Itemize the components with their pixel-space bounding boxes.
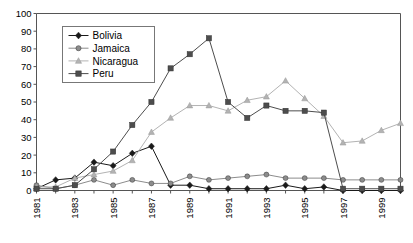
x-axis-label: 1983	[69, 198, 80, 219]
legend-label-peru: Peru	[93, 68, 114, 79]
data-point-circle	[283, 176, 288, 181]
data-point-square	[245, 115, 250, 120]
data-point-circle	[398, 177, 403, 182]
chart-container: 0102030405060708090100198119831985198719…	[0, 0, 413, 243]
series-bolivia	[34, 143, 404, 194]
data-point-circle	[111, 183, 116, 188]
data-point-square	[225, 99, 230, 104]
data-point-triangle	[283, 78, 289, 83]
data-point-diamond	[206, 185, 212, 192]
data-point-diamond	[225, 185, 231, 192]
y-axis-label: 40	[21, 114, 32, 125]
data-point-square	[187, 52, 192, 57]
data-point-diamond	[283, 182, 289, 189]
y-axis-label: 70	[21, 61, 32, 72]
data-point-diamond	[148, 143, 154, 150]
data-point-diamond	[321, 184, 327, 191]
y-axis-label: 10	[21, 167, 32, 178]
data-point-diamond	[263, 185, 269, 192]
data-point-square	[398, 186, 403, 191]
y-axis-label: 30	[21, 132, 32, 143]
y-axis-label: 20	[21, 150, 32, 161]
data-point-square	[111, 149, 116, 154]
data-point-diamond	[53, 177, 59, 184]
data-point-circle	[168, 181, 173, 186]
legend-label-jamaica: Jamaica	[93, 43, 131, 54]
data-point-square	[149, 99, 154, 104]
data-point-square	[379, 186, 384, 191]
x-axis-label: 1997	[338, 198, 349, 219]
data-point-circle	[264, 172, 269, 177]
x-axis-label: 1987	[146, 198, 157, 219]
data-point-circle	[302, 176, 307, 181]
data-point-triangle	[148, 129, 154, 134]
data-point-circle	[245, 174, 250, 179]
data-point-circle	[379, 177, 384, 182]
series-nicaragua	[34, 78, 404, 190]
data-point-circle	[187, 174, 192, 179]
x-axis-label: 1991	[223, 198, 234, 219]
data-point-square	[130, 122, 135, 127]
x-axis-label: 1995	[299, 198, 310, 219]
data-point-circle	[92, 177, 97, 182]
line-chart: 0102030405060708090100198119831985198719…	[0, 0, 413, 243]
data-point-circle	[226, 176, 231, 181]
data-point-square	[283, 108, 288, 113]
data-point-circle	[360, 177, 365, 182]
data-point-square	[34, 186, 39, 191]
data-point-circle	[149, 181, 154, 186]
y-axis-label: 0	[26, 185, 31, 196]
x-axis-label: 1981	[31, 198, 42, 219]
y-axis-label: 50	[21, 96, 32, 107]
data-point-circle	[76, 46, 81, 51]
data-point-square	[91, 167, 96, 172]
data-point-triangle	[168, 115, 174, 120]
data-point-circle	[130, 177, 135, 182]
data-point-square	[206, 36, 211, 41]
data-point-circle	[321, 176, 326, 181]
series-line	[37, 146, 401, 190]
legend-label-bolivia: Bolivia	[93, 30, 123, 41]
data-point-circle	[206, 177, 211, 182]
legend: BoliviaJamaicaNicaraguaPeru	[63, 27, 155, 83]
data-point-square	[302, 108, 307, 113]
y-axis-label: 100	[16, 8, 32, 19]
data-point-triangle	[110, 168, 116, 173]
data-point-square	[360, 186, 365, 191]
x-axis-label: 1985	[108, 198, 119, 219]
x-axis-label: 1989	[184, 198, 195, 219]
data-point-square	[72, 183, 77, 188]
data-point-diamond	[302, 185, 308, 192]
data-point-triangle	[398, 120, 404, 125]
data-point-square	[340, 186, 345, 191]
y-axis-label: 60	[21, 79, 32, 90]
data-point-diamond	[187, 182, 193, 189]
data-point-square	[264, 103, 269, 108]
x-axis-label: 1999	[376, 198, 387, 219]
y-axis-label: 90	[21, 26, 32, 37]
data-point-square	[321, 110, 326, 115]
data-point-diamond	[244, 185, 250, 192]
x-axis-label: 1993	[261, 198, 272, 219]
data-point-square	[53, 186, 58, 191]
data-point-diamond	[129, 150, 135, 157]
data-point-triangle	[359, 138, 365, 143]
data-point-square	[76, 71, 81, 76]
y-axis-label: 80	[21, 43, 32, 54]
legend-label-nicaragua: Nicaragua	[93, 56, 139, 67]
data-point-square	[168, 66, 173, 71]
